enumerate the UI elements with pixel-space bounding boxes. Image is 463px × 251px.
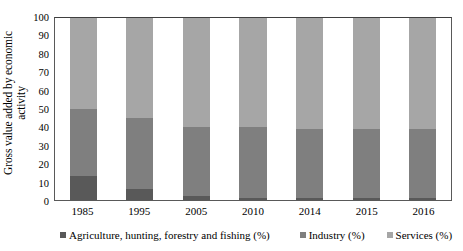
- y-axis-title-line2: activity: [15, 30, 28, 174]
- bar-segment[interactable]: [409, 18, 436, 129]
- bar-segment[interactable]: [353, 198, 380, 200]
- bar-stack[interactable]: [126, 18, 153, 200]
- x-tick-label: 2015: [338, 203, 395, 221]
- bar-segment[interactable]: [409, 198, 436, 200]
- y-axis-title: Gross value added by economic activity: [0, 0, 30, 205]
- bar-slot: [338, 18, 395, 200]
- bar-segment[interactable]: [126, 18, 153, 118]
- legend-swatch-icon: [60, 232, 66, 238]
- bar-slot: [168, 18, 225, 200]
- y-tick-label: 60: [39, 85, 50, 96]
- bar-stack[interactable]: [70, 18, 97, 200]
- legend-swatch-icon: [300, 232, 306, 238]
- bar-segment[interactable]: [126, 189, 153, 200]
- y-tick-label: 80: [39, 48, 50, 59]
- bar-segment[interactable]: [296, 18, 323, 129]
- bar-segment[interactable]: [239, 127, 266, 198]
- y-tick-label: 30: [39, 140, 50, 151]
- bar-segment[interactable]: [353, 129, 380, 198]
- legend-item[interactable]: Services (%): [387, 229, 453, 242]
- bar-segment[interactable]: [296, 129, 323, 198]
- legend-label: Industry (%): [309, 229, 365, 242]
- bars-layer: [55, 18, 451, 200]
- bar-slot: [55, 18, 112, 200]
- bar-segment[interactable]: [70, 109, 97, 176]
- legend-item[interactable]: Industry (%): [300, 229, 365, 242]
- y-tick-label: 90: [39, 30, 50, 41]
- legend-item[interactable]: Agriculture, hunting, forestry and fishi…: [60, 229, 270, 242]
- x-tick-label: 2005: [168, 203, 225, 221]
- bar-slot: [281, 18, 338, 200]
- bar-segment[interactable]: [126, 118, 153, 189]
- x-tick-label: 1995: [111, 203, 168, 221]
- bar-segment[interactable]: [183, 18, 210, 127]
- bar-segment[interactable]: [183, 196, 210, 200]
- y-tick-label: 20: [39, 159, 50, 170]
- stacked-bar-chart: Gross value added by economic activity 1…: [0, 0, 463, 251]
- y-tick-label: 50: [39, 104, 50, 115]
- y-tick-label: 10: [39, 177, 50, 188]
- x-tick-label: 2014: [281, 203, 338, 221]
- bar-stack[interactable]: [353, 18, 380, 200]
- legend-label: Agriculture, hunting, forestry and fishi…: [69, 229, 270, 242]
- bar-segment[interactable]: [353, 18, 380, 129]
- legend-label: Services (%): [396, 229, 453, 242]
- bar-segment[interactable]: [239, 18, 266, 127]
- bar-slot: [225, 18, 282, 200]
- bar-slot: [394, 18, 451, 200]
- legend-swatch-icon: [387, 232, 393, 238]
- bar-segment[interactable]: [70, 176, 97, 200]
- x-tick-label: 1985: [54, 203, 111, 221]
- x-axis-tick-labels: 1985199520052010201420152016: [54, 203, 452, 221]
- y-axis-title-line1: Gross value added by economic: [2, 30, 15, 174]
- bar-segment[interactable]: [409, 129, 436, 198]
- bar-stack[interactable]: [409, 18, 436, 200]
- x-tick-label: 2010: [225, 203, 282, 221]
- y-axis-tick-labels: 1009080706050403020100: [28, 17, 52, 201]
- x-tick-label: 2016: [395, 203, 452, 221]
- y-tick-label: 0: [44, 196, 49, 207]
- bar-segment[interactable]: [296, 198, 323, 200]
- bar-segment[interactable]: [70, 18, 97, 109]
- bar-stack[interactable]: [183, 18, 210, 200]
- y-tick-label: 100: [33, 12, 49, 23]
- plot-area: [54, 17, 452, 201]
- chart-legend: Agriculture, hunting, forestry and fishi…: [54, 226, 459, 244]
- bar-slot: [112, 18, 169, 200]
- bar-stack[interactable]: [239, 18, 266, 200]
- bar-stack[interactable]: [296, 18, 323, 200]
- y-tick-label: 70: [39, 67, 50, 78]
- bar-segment[interactable]: [183, 127, 210, 196]
- bar-segment[interactable]: [239, 198, 266, 200]
- y-tick-label: 40: [39, 122, 50, 133]
